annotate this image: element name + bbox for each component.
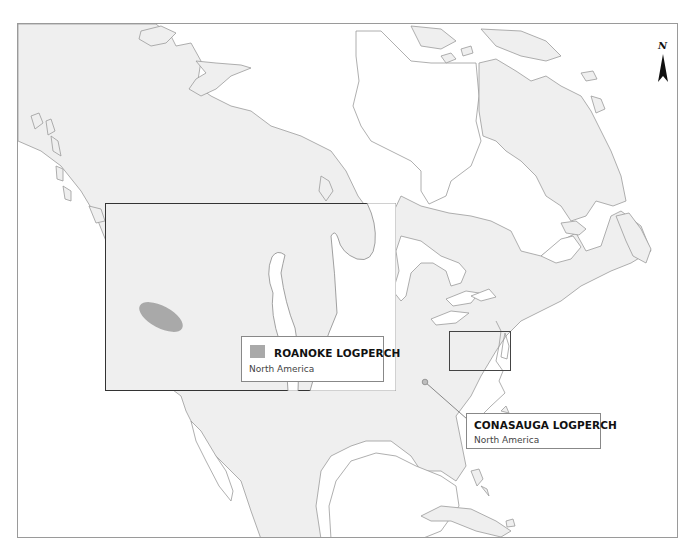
roanoke-title: ROANOKE LOGPERCH	[274, 347, 400, 359]
north-label: N	[658, 40, 667, 51]
greenland	[479, 59, 626, 221]
conasauga-logperch-label: CONASAUGA LOGPERCH North America	[466, 413, 601, 449]
north-arrow-icon	[656, 54, 670, 84]
range-swatch	[250, 345, 265, 358]
conasauga-title: CONASAUGA LOGPERCH	[474, 419, 617, 431]
conasauga-location-marker	[422, 379, 428, 385]
conasauga-subtitle: North America	[474, 435, 539, 445]
roanoke-range-area	[134, 296, 187, 338]
hudson-bay	[353, 31, 481, 204]
north-arrow: N	[656, 40, 676, 86]
study-area-box	[449, 331, 511, 371]
roanoke-logperch-label: ROANOKE LOGPERCH North America	[241, 336, 384, 382]
roanoke-subtitle: North America	[249, 364, 314, 374]
